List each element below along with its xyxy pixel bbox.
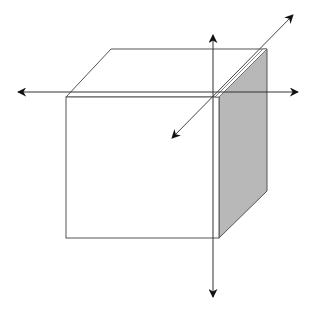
diagram-canvas: [0, 0, 312, 312]
cube-front-face: [66, 97, 219, 238]
cube-axes-diagram: [0, 0, 312, 312]
